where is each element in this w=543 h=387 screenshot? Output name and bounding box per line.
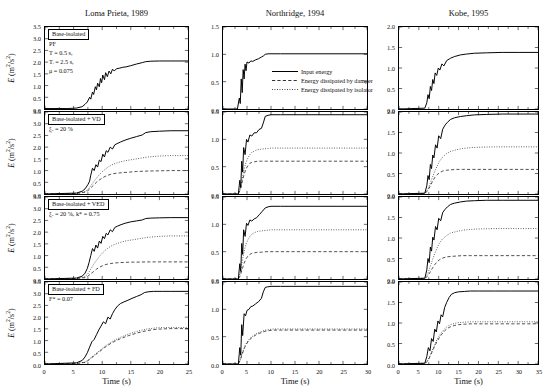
annotation-params-row3: ξₔ = 20 %, k* = 0.75 [49, 210, 100, 219]
ytick-r3-c1-1: 0.5 [22, 265, 41, 272]
xtick-c2-3: 15 [292, 368, 298, 375]
ytick-r2-c2-1: 0.5 [200, 164, 219, 171]
ytick-r2-c2-2: 1.0 [200, 136, 219, 143]
panel-r4-c3 [398, 281, 539, 365]
xtick-c3-1: 5 [417, 368, 420, 375]
xtick-c3-7: 35 [536, 368, 542, 375]
ytick-r2-c3-1: 0.5 [376, 171, 395, 178]
xtick-c1-2: 10 [99, 368, 105, 375]
series-dash-dot [399, 322, 538, 364]
y-axis-label-row2: E (m2/s2) [5, 108, 17, 198]
annotation-params-row4: F* = 0.07 [49, 295, 73, 304]
legend-key-dashed [272, 76, 298, 85]
ytick-r4-c1-0: 0.0 [22, 362, 41, 369]
ytick-r3-c1-2: 1.0 [22, 253, 41, 260]
ytick-r1-c3-4: 2.0 [376, 23, 395, 30]
annotation-param-line: Tᵢ = 2.5 s, [49, 58, 74, 67]
series-dashed [45, 262, 188, 279]
ytick-r1-c1-5: 2.5 [22, 47, 41, 54]
series-dashed [223, 161, 367, 194]
ytick-r3-c1-7: 3.5 [22, 193, 41, 200]
ytick-r3-c3-3: 1.5 [376, 214, 395, 221]
ytick-r2-c1-1: 0.5 [22, 180, 41, 187]
series-dashed [223, 330, 367, 364]
ytick-r1-c3-3: 1.5 [376, 44, 395, 51]
series-solid [223, 286, 367, 364]
series-solid [223, 206, 367, 279]
ytick-r3-c1-3: 1.5 [22, 241, 41, 248]
annotation-param-line: PF [49, 40, 74, 49]
legend-key-solid [272, 67, 298, 76]
xtick-c2-2: 10 [267, 368, 273, 375]
ytick-r4-c3-4: 2.0 [376, 278, 395, 285]
y-axis-label-row3: E (m2/s2) [5, 193, 17, 283]
annotation-param-line: T = 0.5 s, [49, 49, 74, 58]
ytick-r4-c2-3: 1.5 [200, 278, 219, 285]
panel-r1-c3 [398, 26, 539, 110]
ytick-r4-c1-3: 1.5 [22, 326, 41, 333]
x-axis-label-c2: Time (s) [222, 376, 368, 386]
ytick-r2-c1-4: 2.0 [22, 144, 41, 151]
annotation-param-line: ξₔ = 20 %, k* = 0.75 [49, 210, 100, 219]
y-axis-label-row4: E (m2/s2) [5, 278, 17, 368]
annotation-box-row2: Base-isolated + VD [48, 114, 105, 125]
series-solid [45, 218, 188, 279]
legend-entry-2: Energy dissipated by damper [272, 76, 373, 85]
series-dashed [45, 329, 188, 364]
ytick-r1-c2-1: 0.5 [200, 79, 219, 86]
ytick-r2-c1-6: 3.0 [22, 120, 41, 127]
ytick-r2-c1-5: 2.5 [22, 132, 41, 139]
x-axis-label-c1: Time (s) [44, 376, 189, 386]
legend-label: Energy dissipated by damper [301, 76, 373, 85]
ytick-r3-c1-6: 3.0 [22, 205, 41, 212]
ytick-r3-c3-4: 2.0 [376, 193, 395, 200]
ytick-r2-c3-3: 1.5 [376, 129, 395, 136]
annotation-params-row1: PFT = 0.5 s,Tᵢ = 2.5 s,μ = 0.075 [49, 40, 74, 76]
series-dash-dot [45, 156, 188, 194]
ytick-r2-c1-7: 3.5 [22, 108, 41, 115]
series-solid [399, 52, 538, 109]
ytick-r1-c1-7: 3.5 [22, 23, 41, 30]
ytick-r1-c3-2: 1.0 [376, 65, 395, 72]
ytick-r1-c1-6: 3.0 [22, 35, 41, 42]
annotation-param-line: μ = 0.075 [49, 67, 74, 76]
x-axis-label-c3: Time (s) [398, 376, 539, 386]
xtick-c2-1: 5 [245, 368, 248, 375]
column-title-1: Loma Prieta, 1989 [44, 8, 189, 18]
ytick-r1-c2-3: 1.5 [200, 23, 219, 30]
ytick-r2-c1-2: 1.0 [22, 168, 41, 175]
panel-r2-c3 [398, 111, 539, 195]
series-solid [399, 200, 538, 279]
ytick-r3-c2-3: 1.5 [200, 193, 219, 200]
xtick-c1-1: 5 [71, 368, 74, 375]
figure-energy-time-histories: Loma Prieta, 1989Northridge, 1994Kobe, 1… [0, 0, 543, 387]
series-dashed [223, 252, 367, 279]
xtick-c3-2: 10 [435, 368, 441, 375]
series-solid [223, 115, 367, 194]
legend-key-dash-dot [272, 85, 298, 94]
ytick-r1-c3-1: 0.5 [376, 86, 395, 93]
series-dashed [399, 256, 538, 279]
series-dashed [399, 324, 538, 364]
legend-label: Input energy [301, 67, 332, 76]
ytick-r3-c1-4: 2.0 [22, 229, 41, 236]
xtick-c3-5: 25 [496, 368, 502, 375]
panel-r2-c2 [222, 111, 368, 195]
series-solid [399, 114, 538, 194]
y-axis-label-row1: E (m2/s2) [5, 23, 17, 113]
xtick-c1-3: 15 [128, 368, 134, 375]
ytick-r4-c1-7: 3.5 [22, 278, 41, 285]
series-dash-dot [399, 147, 538, 194]
ytick-r4-c1-1: 0.5 [22, 350, 41, 357]
series-dashed [399, 169, 538, 194]
ytick-r2-c2-3: 1.5 [200, 108, 219, 115]
ytick-r1-c1-1: 0.5 [22, 95, 41, 102]
legend-entry-3: Energy dissipated by isolator [272, 85, 373, 94]
xtick-c1-4: 20 [157, 368, 163, 375]
ytick-r4-c2-2: 1.0 [200, 306, 219, 313]
xtick-c3-4: 20 [475, 368, 481, 375]
series-solid [45, 131, 188, 194]
ytick-r3-c1-5: 2.5 [22, 217, 41, 224]
column-title-3: Kobe, 1995 [398, 8, 539, 18]
annotation-box-row3: Base-isolated + VED [48, 199, 109, 210]
